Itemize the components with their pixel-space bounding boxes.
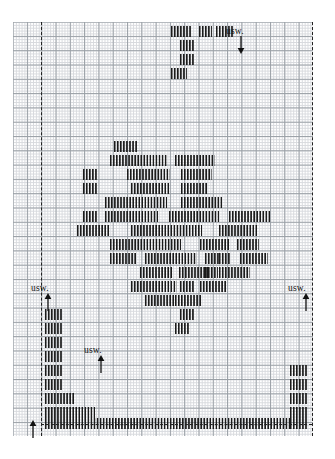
tally-run	[171, 68, 187, 79]
tally-run	[205, 267, 218, 278]
tally-run	[205, 253, 219, 264]
usw-middle-arrow-icon	[96, 355, 106, 373]
tally-run	[290, 365, 307, 376]
tally-run	[45, 393, 75, 404]
tally-run	[45, 351, 62, 362]
tally-run	[219, 225, 257, 236]
tally-run	[237, 239, 259, 250]
usw-top-label: usw.	[226, 26, 244, 36]
tally-run	[110, 253, 137, 264]
tally-run	[181, 197, 222, 208]
tally-run	[175, 323, 189, 334]
usw-left-arrow-icon	[43, 293, 53, 311]
tally-run	[180, 281, 194, 292]
figure-canvas: usw.usw.usw.usw.	[0, 0, 335, 459]
tally-run	[219, 267, 250, 278]
baseline	[41, 424, 312, 425]
tally-run	[240, 253, 268, 264]
tally-run	[229, 211, 270, 222]
tally-run	[105, 197, 167, 208]
tally-run	[45, 337, 62, 348]
tally-run	[181, 169, 212, 180]
right-boundary	[312, 22, 313, 436]
tally-run	[110, 155, 167, 166]
tally-run	[145, 295, 175, 306]
usw-middle-label: usw.	[84, 345, 102, 355]
tally-run	[131, 183, 170, 194]
tally-run	[83, 169, 97, 180]
tally-run	[131, 225, 202, 236]
tally-run	[45, 365, 62, 376]
left-boundary	[41, 22, 42, 436]
tally-run	[180, 309, 194, 320]
tally-run	[145, 253, 197, 264]
tally-run	[175, 295, 202, 306]
axis-origin-arrow-icon	[28, 420, 38, 438]
tally-run	[45, 407, 95, 418]
tally-run	[199, 26, 212, 37]
tally-run	[105, 211, 158, 222]
tally-run	[131, 281, 177, 292]
tally-run	[175, 155, 215, 166]
usw-left-label: usw.	[31, 283, 49, 293]
tally-run	[290, 407, 307, 418]
tally-run	[127, 169, 170, 180]
tally-run	[171, 26, 192, 37]
tally-run	[45, 323, 62, 334]
tally-run	[114, 141, 138, 152]
tally-run	[290, 379, 307, 390]
usw-top-arrow-icon	[236, 36, 246, 54]
tally-run	[83, 183, 97, 194]
tally-run	[200, 239, 229, 250]
tally-run	[181, 183, 208, 194]
tally-run	[169, 211, 219, 222]
tally-run	[180, 40, 195, 51]
tally-run	[45, 379, 62, 390]
usw-right-label: usw.	[288, 283, 306, 293]
tally-run	[110, 239, 181, 250]
tally-run	[219, 253, 231, 264]
tally-run	[77, 225, 109, 236]
tally-run	[290, 393, 307, 404]
tally-run	[140, 267, 172, 278]
tally-run	[180, 54, 195, 65]
tally-run	[83, 211, 97, 222]
usw-right-arrow-icon	[301, 293, 311, 311]
tally-run	[200, 281, 227, 292]
